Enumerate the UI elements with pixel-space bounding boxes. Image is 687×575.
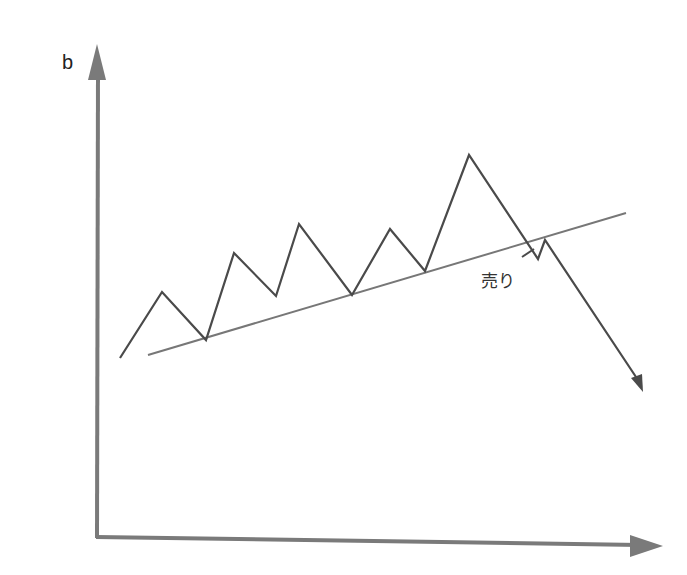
x-axis [96,537,640,545]
y-axis [97,70,98,538]
sell-point-tick [522,249,534,257]
y-axis-arrowhead-icon [88,44,106,80]
sell-label: 売り [481,271,515,291]
price-line [120,155,638,380]
panel-label: b [62,51,73,73]
diagram-canvas: b 売り [0,0,687,575]
breakdown-arrowhead-icon [631,374,643,392]
x-axis-arrowhead-icon [630,535,663,557]
